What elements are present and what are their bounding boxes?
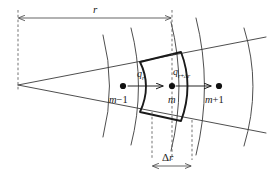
- flux-subscript-r: r: [142, 74, 145, 81]
- flux-subscript-r-plus-delta-r: r+Δr: [178, 72, 190, 79]
- node-variable-m: m: [205, 94, 213, 105]
- node-label-m-plus-1: m+1: [205, 95, 224, 106]
- flux-label-q-r-plus-delta-r: qr+Δr: [173, 67, 190, 77]
- node-variable-m: m: [109, 94, 117, 105]
- arc-face-left: [131, 28, 139, 145]
- wedge-rays: [18, 37, 266, 133]
- flux-label-q-r: qr: [137, 69, 145, 79]
- node-index-1: 1: [123, 94, 128, 105]
- delta-r-variable: r: [169, 151, 173, 163]
- arc-outer-2: [244, 28, 253, 146]
- node-dot-m: [169, 83, 175, 89]
- dimension-label-delta-r: Δr: [162, 152, 173, 163]
- radial-control-volume-diagram: r Δr qr qr+Δr m−1 m m+1: [0, 0, 278, 176]
- node-label-m-minus-1: m−1: [109, 95, 128, 106]
- arc-outer-1: [196, 18, 205, 155]
- subscript-plus-op: +: [181, 72, 185, 79]
- control-volume-boundary: [140, 52, 188, 121]
- node-variable-m: m: [168, 94, 176, 105]
- dimension-label-r: r: [93, 4, 97, 15]
- node-index-1: 1: [219, 94, 224, 105]
- arc-inner-1: [103, 35, 110, 137]
- diagram-canvas: [0, 0, 278, 176]
- node-dot-m-minus-1: [120, 83, 126, 89]
- node-label-m: m: [168, 95, 176, 106]
- node-dot-m-plus-1: [216, 83, 222, 89]
- control-volume-cell: [140, 52, 188, 121]
- projection-lines: [18, 10, 192, 160]
